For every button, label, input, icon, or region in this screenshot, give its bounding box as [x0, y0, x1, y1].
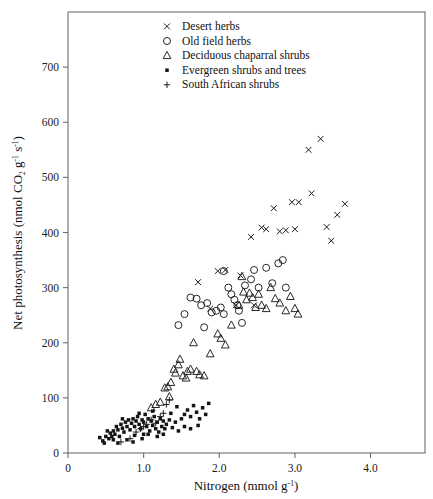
y-axis-title: Net photosynthesis (nmol CO2 g-1 s-1)	[10, 136, 27, 330]
axis-ticks	[63, 67, 371, 458]
cross-x-icon	[164, 24, 170, 30]
plot-canvas: 01.02.03.04.00100200300400500600700 Dese…	[0, 0, 433, 499]
open-triangle-icon	[163, 51, 171, 58]
y-tick-label: 0	[53, 447, 59, 459]
filled-square-dot-icon	[165, 68, 169, 72]
legend-label: Deciduous chaparral shrubs	[182, 49, 310, 62]
y-tick-label: 700	[42, 61, 60, 73]
y-tick-label: 500	[42, 171, 60, 183]
x-tick-label: 2.0	[212, 462, 227, 474]
series-deciduous-chaparral-shrubs	[147, 272, 301, 410]
axis-tick-labels: 01.02.03.04.00100200300400500600700	[42, 61, 378, 474]
open-circle-icon	[164, 38, 171, 45]
x-tick-label: 1.0	[136, 462, 151, 474]
legend-label: Old field herbs	[182, 35, 252, 47]
x-tick-label: 0	[65, 462, 71, 474]
legend-label: South African shrubs	[182, 78, 280, 90]
y-tick-label: 600	[42, 116, 60, 128]
series-old-field-herbs	[175, 257, 289, 331]
y-tick-label: 400	[42, 227, 60, 239]
y-tick-label: 200	[42, 337, 60, 349]
legend-label: Evergreen shrubs and trees	[182, 64, 307, 77]
legend: Desert herbsOld field herbsDeciduous cha…	[163, 20, 310, 90]
legend-item-desert-herbs: Desert herbs	[164, 20, 240, 32]
legend-label: Desert herbs	[182, 20, 240, 32]
scatter-plot-figure: 01.02.03.04.00100200300400500600700 Dese…	[0, 0, 433, 499]
x-tick-label: 3.0	[288, 462, 303, 474]
legend-item-evergreen-shrubs-and-trees: Evergreen shrubs and trees	[165, 64, 306, 77]
legend-item-deciduous-chaparral-shrubs: Deciduous chaparral shrubs	[163, 49, 310, 62]
x-tick-label: 4.0	[363, 462, 378, 474]
legend-item-old-field-herbs: Old field herbs	[164, 35, 252, 47]
x-axis-title: Nitrogen (mmol g-1)	[194, 478, 299, 493]
plus-icon	[164, 82, 170, 88]
data-points	[98, 136, 348, 445]
legend-item-south-african-shrubs: South African shrubs	[164, 78, 280, 90]
y-tick-label: 300	[42, 282, 60, 294]
y-tick-label: 100	[42, 392, 60, 404]
